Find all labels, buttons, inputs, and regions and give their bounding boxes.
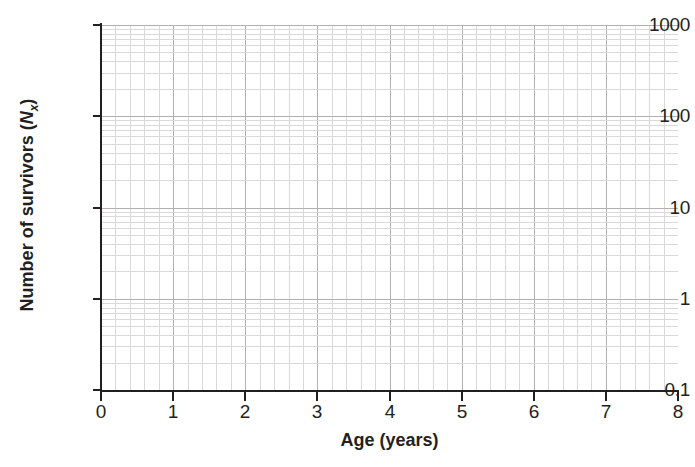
x-tick-mark xyxy=(605,392,607,401)
x-tick-mark xyxy=(244,392,246,401)
gridline-horizontal-minor xyxy=(101,34,678,35)
gridline-horizontal-minor xyxy=(101,45,678,46)
y-tick-label: 100 xyxy=(603,106,695,125)
y-tick-label: 1 xyxy=(603,289,695,308)
x-tick-label: 2 xyxy=(225,402,265,421)
gridline-horizontal-minor xyxy=(101,180,678,181)
x-tick-mark xyxy=(461,392,463,401)
x-tick-mark xyxy=(100,392,102,401)
y-tick-label: 1000 xyxy=(603,15,695,34)
y-tick-mark xyxy=(93,298,101,300)
gridline-horizontal-minor xyxy=(101,39,678,40)
gridline-horizontal-major xyxy=(101,25,678,26)
gridline-horizontal-minor xyxy=(101,335,678,336)
x-tick-mark xyxy=(172,392,174,401)
gridline-horizontal-minor xyxy=(101,235,678,236)
horizontal-gridlines xyxy=(101,25,678,390)
x-tick-label: 6 xyxy=(514,402,554,421)
x-tick-label: 4 xyxy=(370,402,410,421)
y-axis-title: Number of survivors (Nx) xyxy=(12,15,42,395)
gridline-horizontal-minor xyxy=(101,363,678,364)
x-tick-mark xyxy=(677,392,679,401)
gridline-horizontal-minor xyxy=(101,271,678,272)
y-axis-title-prefix: Number of survivors ( xyxy=(17,124,37,311)
gridline-horizontal-major xyxy=(101,116,678,117)
y-tick-mark xyxy=(93,389,101,391)
gridline-horizontal-minor xyxy=(101,212,678,213)
gridline-horizontal-minor xyxy=(101,73,678,74)
y-axis-title-suffix: ) xyxy=(17,99,37,105)
gridline-horizontal-minor xyxy=(101,255,678,256)
gridline-horizontal-major xyxy=(101,299,678,300)
gridline-horizontal-minor xyxy=(101,130,678,131)
gridline-horizontal-minor xyxy=(101,346,678,347)
gridline-horizontal-minor xyxy=(101,222,678,223)
x-tick-label: 0 xyxy=(81,402,121,421)
x-tick-label: 1 xyxy=(153,402,193,421)
gridline-horizontal-minor xyxy=(101,319,678,320)
gridline-horizontal-minor xyxy=(101,153,678,154)
gridline-horizontal-minor xyxy=(101,29,678,30)
gridline-horizontal-minor xyxy=(101,164,678,165)
gridline-horizontal-minor xyxy=(101,244,678,245)
gridline-horizontal-major xyxy=(101,208,678,209)
y-tick-mark xyxy=(93,24,101,26)
x-tick-mark xyxy=(533,392,535,401)
x-tick-label: 3 xyxy=(297,402,337,421)
x-tick-mark xyxy=(389,392,391,401)
gridline-horizontal-minor xyxy=(101,125,678,126)
x-tick-label: 5 xyxy=(442,402,482,421)
gridline-horizontal-minor xyxy=(101,61,678,62)
gridline-horizontal-minor xyxy=(101,326,678,327)
x-tick-mark xyxy=(316,392,318,401)
plot-area xyxy=(101,25,678,390)
y-tick-mark xyxy=(93,115,101,117)
x-axis-title: Age (years) xyxy=(101,430,678,451)
gridline-horizontal-minor xyxy=(101,228,678,229)
gridline-horizontal-minor xyxy=(101,313,678,314)
gridline-horizontal-minor xyxy=(101,144,678,145)
y-tick-label: 10 xyxy=(603,198,695,217)
gridline-horizontal-minor xyxy=(101,136,678,137)
gridline-horizontal-minor xyxy=(101,308,678,309)
y-tick-label: 0.1 xyxy=(603,380,695,399)
gridline-horizontal-minor xyxy=(101,303,678,304)
gridline-horizontal-minor xyxy=(101,89,678,90)
survivorship-chart-figure: 0.11101001000 012345678 Number of surviv… xyxy=(0,0,695,467)
x-tick-label: 7 xyxy=(586,402,626,421)
gridline-horizontal-minor xyxy=(101,52,678,53)
gridline-horizontal-minor xyxy=(101,120,678,121)
y-axis-title-subscript: x xyxy=(27,105,41,112)
gridline-horizontal-minor xyxy=(101,216,678,217)
y-axis-title-symbol: N xyxy=(17,111,37,124)
x-tick-label: 8 xyxy=(658,402,695,421)
y-tick-mark xyxy=(93,207,101,209)
